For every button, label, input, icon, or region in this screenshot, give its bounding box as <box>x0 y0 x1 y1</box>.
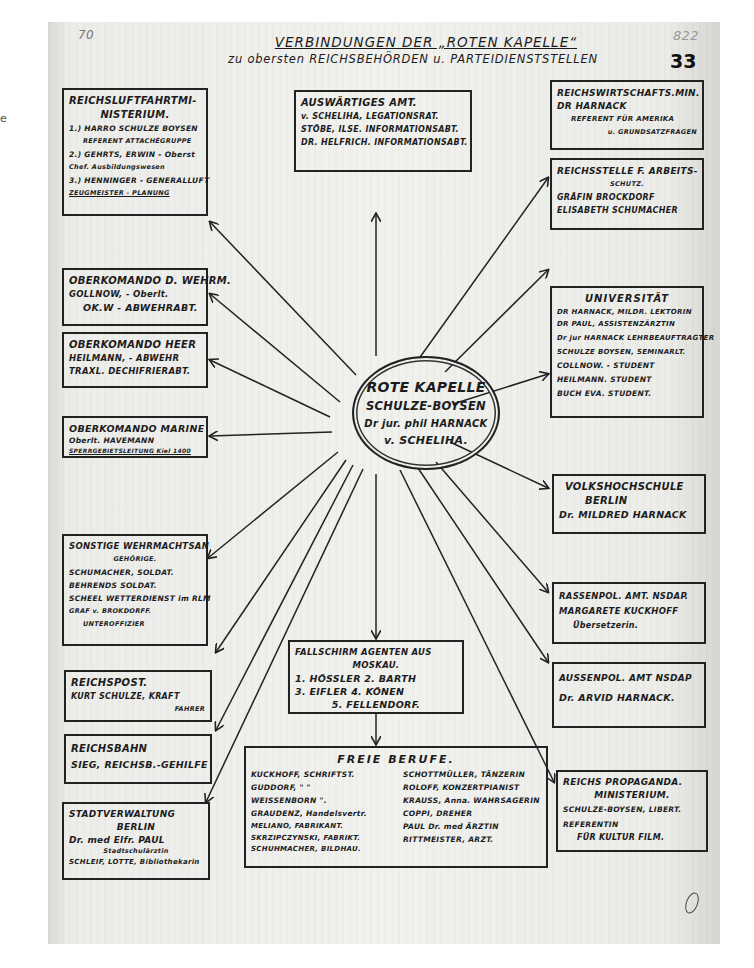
node-title: REICHSSTELLE F. ARBEITS- <box>557 164 697 178</box>
node-line: RITTMEISTER, ARZT. <box>403 833 541 846</box>
node-line: v. SCHELIHA, LEGATIONSRAT. <box>301 110 465 123</box>
node-line: WEISSENBORN ". <box>251 794 389 807</box>
node-line: 5. FELLENDORF. <box>295 698 457 711</box>
node-stadtverwaltung-berlin: STADTVERWALTUNG BERLIN Dr. med Elfr. PAU… <box>62 802 210 880</box>
archive-number: 822 <box>673 28 699 43</box>
hub-line: ROTE KAPELLE <box>366 378 485 397</box>
node-line: UNTEROFFIZIER <box>69 618 201 631</box>
node-line: SCHEEL WETTERDIENST im RLM <box>69 592 201 605</box>
node-line: DR. HELFRICH. INFORMATIONSABT. <box>301 136 465 149</box>
node-title: REICHSPOST. <box>71 676 205 690</box>
node-line: SCHUHMACHER, BILDHAU. <box>251 844 389 855</box>
node-title: VOLKSHOCHSCHULE <box>559 480 699 494</box>
node-line: ELISABETH SCHUMACHER <box>557 204 697 217</box>
node-reichswirtschaftsministerium: REICHSWIRTSCHAFTS.MIN. DR HARNACK REFERE… <box>550 80 704 150</box>
node-line: GOLLNOW, - Oberlt. <box>69 288 201 301</box>
node-line: KRAUSS, Anna. WAHRSAGERIN <box>403 794 541 807</box>
node-title: NISTERIUM. <box>69 108 201 122</box>
arrow-propaganda <box>400 470 554 782</box>
node-line: SCHULZE-BOYSEN, LIBERT. <box>563 802 701 818</box>
document-sheet: 70 VERBINDUNGEN DER „ROTEN KAPELLE“ zu o… <box>48 22 720 944</box>
node-line: 3. EIFLER 4. KÖNEN <box>295 685 457 698</box>
node-reichsbahn: REICHSBAHN SIEG, REICHSB.-GEHILFE <box>64 734 212 784</box>
node-line: ROLOFF, KONZERTPIANIST <box>403 781 541 794</box>
arrow-rassenpol <box>436 462 548 592</box>
node-line: OK.W - ABWEHRABT. <box>69 301 201 314</box>
node-line: SCHULZE BOYSEN, SEMINARLT. <box>557 345 697 359</box>
node-line: HEILMANN. STUDENT <box>557 373 697 387</box>
freie-berufe-right-column: SCHOTTMÜLLER, TÄNZERIN ROLOFF, KONZERTPI… <box>403 768 541 855</box>
node-fallschirmagenten-moskau: FALLSCHIRM AGENTEN AUS MOSKAU. 1. HÖSSLE… <box>288 640 464 714</box>
node-title: SONSTIGE WEHRMACHTSAN <box>69 540 201 553</box>
node-line: Chef. Ausbildungswesen <box>69 161 201 174</box>
node-title: REICHSBAHN <box>71 740 205 758</box>
arrow-wirtschaft <box>418 178 548 360</box>
node-line: GRAUDENZ, Handelsvertr. <box>251 807 389 820</box>
node-line: KUCKHOFF, SCHRIFTST. <box>251 768 389 781</box>
node-line: 2.) GEHRTS, ERWIN - Oberst <box>69 148 201 161</box>
node-line: DR HARNACK <box>557 100 697 113</box>
node-line: 1.) HARRO SCHULZE BOYSEN <box>69 122 201 135</box>
node-title: FALLSCHIRM AGENTEN AUS <box>295 646 457 659</box>
freie-berufe-left-column: KUCKHOFF, SCHRIFTST. GUDDORF, " " WEISSE… <box>251 768 389 855</box>
node-line: Dr jur HARNACK LEHRBEAUFTRAGTER <box>557 331 697 345</box>
stray-mark: e <box>0 112 7 125</box>
node-line: SKRZIPCZYNSKI, FABRIKT. <box>251 832 389 844</box>
node-title: REICHSWIRTSCHAFTS.MIN. <box>557 86 697 100</box>
node-line: SIEG, REICHSB.-GEHILFE <box>71 758 205 771</box>
node-rassenpolitisches-amt: RASSENPOL. AMT. NSDAP. MARGARETE KUCKHOF… <box>552 582 706 644</box>
node-oberkommando-marine: OBERKOMANDO MARINE Oberlt. HAVEMANN SPER… <box>62 416 208 458</box>
node-freie-berufe: FREIE BERUFE. KUCKHOFF, SCHRIFTST. GUDDO… <box>244 746 548 868</box>
node-line: DR PAUL, ASSISTENZÄRZTIN <box>557 318 697 331</box>
node-line: u. GRUNDSATZFRAGEN <box>557 126 697 139</box>
node-reichsstelle-arbeitsschutz: REICHSSTELLE F. ARBEITS- SCHUTZ. GRÄFIN … <box>550 158 704 230</box>
node-oberkommando-wehrmacht: OBERKOMANDO D. WEHRM. GOLLNOW, - Oberlt.… <box>62 268 208 326</box>
node-line: BUCH EVA. STUDENT. <box>557 387 697 401</box>
node-line: Dr. med Elfr. PAUL <box>69 834 203 847</box>
node-title: REICHSLUFTFAHRTMI- <box>69 94 201 108</box>
arrow-reichspost <box>216 460 346 652</box>
node-line: GUDDORF, " " <box>251 781 389 794</box>
freie-berufe-columns: KUCKHOFF, SCHRIFTST. GUDDORF, " " WEISSE… <box>251 768 541 855</box>
node-sonstige-wehrmacht: SONSTIGE WEHRMACHTSAN GEHÖRIGE. SCHUMACH… <box>62 534 208 646</box>
page-number: 33 <box>670 50 696 72</box>
node-title: OBERKOMANDO MARINE <box>69 422 201 436</box>
node-line: COLLNOW. - STUDENT <box>557 359 697 373</box>
node-line: GRÄFIN BROCKDORF <box>557 191 697 204</box>
node-title: RASSENPOL. AMT. NSDAP. <box>559 588 699 604</box>
hub-rote-kapelle: ROTE KAPELLE SCHULZE-BOYSEN Dr jur. phil… <box>352 356 500 470</box>
node-title: FREIE BERUFE. <box>251 752 541 768</box>
node-line: DR HARNACK, MILDR. LEKTORIN <box>557 306 697 318</box>
node-line: HEILMANN, - ABWEHR <box>69 352 201 365</box>
hub-line: Dr jur. phil HARNACK <box>364 415 487 432</box>
node-line: FÜR KULTUR FILM. <box>563 831 701 844</box>
node-line: FAHRER <box>71 703 205 716</box>
hub-line: SCHULZE-BOYSEN <box>366 397 486 415</box>
node-title: MINISTERIUM. <box>563 789 701 802</box>
node-line: SPERRGEBIETSLEITUNG Kiel 1400 <box>69 446 201 455</box>
node-line: Stadtschulärztin <box>69 847 203 856</box>
document-title: VERBINDUNGEN DER „ROTEN KAPELLE“ <box>226 34 626 50</box>
margin-number: 70 <box>78 28 94 42</box>
node-title: GEHÖRIGE. <box>69 553 201 566</box>
node-line: REFERENTIN <box>563 818 701 831</box>
node-title: BERLIN <box>69 821 203 834</box>
node-line: 1. HÖSSLER 2. BARTH <box>295 672 457 685</box>
node-line: 3.) HENNINGER - GENERALLUFT <box>69 174 201 187</box>
node-line: COPPI, DREHER <box>403 807 541 820</box>
arrow-luftfahrt <box>210 222 356 375</box>
node-line: MARGARETE KUCKHOFF <box>559 604 699 619</box>
node-reichsluftfahrtministerium: REICHSLUFTFAHRTMI- NISTERIUM. 1.) HARRO … <box>62 88 208 216</box>
node-line: ZEUGMEISTER - PLANUNG <box>69 187 201 200</box>
node-line: GRAF v. BROKDORFF. <box>69 605 201 618</box>
hub-line: v. SCHELIHA. <box>384 432 468 449</box>
node-volkshochschule-berlin: VOLKSHOCHSCHULE BERLIN Dr. MILDRED HARNA… <box>552 474 706 534</box>
node-title: AUSWÄRTIGES AMT. <box>301 96 465 110</box>
arrow-okm <box>210 432 332 436</box>
node-line: TRAXL. DECHIFRIERABT. <box>69 365 201 378</box>
node-line: SCHOTTMÜLLER, TÄNZERIN <box>403 768 541 781</box>
node-line: BEHRENDS SOLDAT. <box>69 579 201 592</box>
node-line: MELIANO, FABRIKANT. <box>251 820 389 832</box>
node-title: SCHUTZ. <box>557 178 697 191</box>
arrow-okh <box>210 360 330 417</box>
